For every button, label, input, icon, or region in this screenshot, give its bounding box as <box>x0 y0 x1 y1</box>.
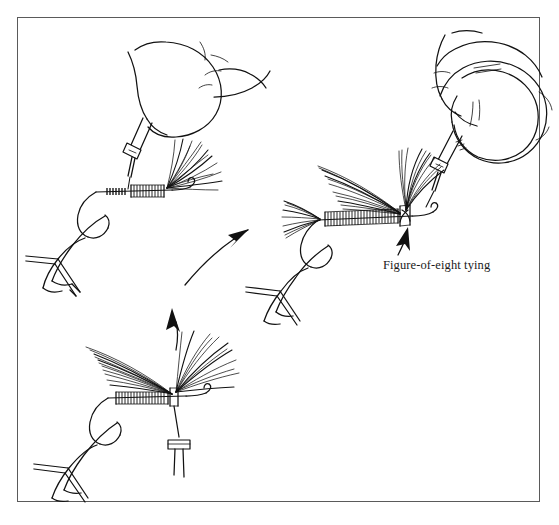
feather-wing-left <box>86 347 172 394</box>
panel-bottom-center <box>86 331 239 477</box>
thread <box>128 177 130 189</box>
curved-arrow-up <box>166 308 180 350</box>
thread-wraps-rear <box>107 188 125 195</box>
hook-shank <box>108 396 186 398</box>
figure-page: .ln { fill:none; stroke:#111; stroke-wid… <box>0 0 559 525</box>
curved-arrow-up-right <box>185 229 249 285</box>
panel-top-left <box>96 42 270 197</box>
feather-wing-right <box>176 331 239 392</box>
caption-pointer-arrow <box>396 227 410 255</box>
thread <box>426 191 434 207</box>
wing-right <box>399 148 444 210</box>
figure-of-eight-point <box>400 205 410 226</box>
wing-left <box>318 166 400 214</box>
hook-eye <box>412 203 438 216</box>
hand <box>432 31 542 126</box>
panel-right <box>282 31 552 238</box>
hanging-bobbin <box>168 406 190 477</box>
hand <box>128 42 270 137</box>
vise-bottom-center <box>34 398 121 502</box>
figure-of-eight-caption: Figure-of-eight tying <box>383 258 490 273</box>
bobbin <box>430 61 552 191</box>
tail <box>282 201 320 238</box>
vise-top-left <box>26 192 109 296</box>
